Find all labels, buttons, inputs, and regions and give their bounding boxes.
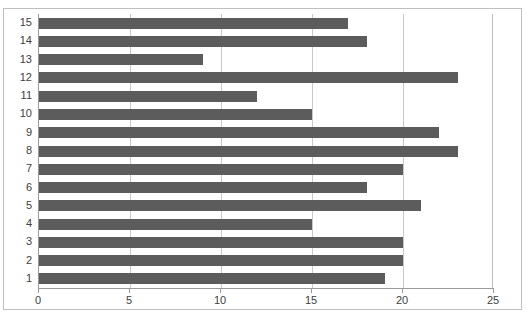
y-tick-label: 14 — [6, 34, 32, 46]
x-tick-mark — [129, 289, 130, 293]
y-tick-label: 1 — [6, 272, 32, 284]
bar — [39, 36, 367, 47]
bar — [39, 200, 421, 211]
bar — [39, 164, 403, 175]
y-tick-label: 5 — [6, 199, 32, 211]
bar — [39, 127, 439, 138]
bar — [39, 146, 458, 157]
y-tick-label: 7 — [6, 162, 32, 174]
bar — [39, 72, 458, 83]
x-tick-mark — [220, 289, 221, 293]
bar — [39, 237, 403, 248]
x-tick-mark — [311, 289, 312, 293]
x-tick-mark — [402, 289, 403, 293]
x-tick-label: 0 — [35, 294, 41, 306]
y-tick-label: 15 — [6, 16, 32, 28]
y-tick-label: 9 — [6, 126, 32, 138]
x-axis-line — [38, 288, 494, 289]
bar — [39, 18, 348, 29]
bar — [39, 54, 203, 65]
bar — [39, 109, 312, 120]
bar — [39, 182, 367, 193]
y-tick-label: 2 — [6, 254, 32, 266]
x-tick-mark — [493, 289, 494, 293]
bar-chart: 0510152025151413121110987654321 — [0, 0, 527, 319]
x-tick-label: 15 — [305, 294, 317, 306]
plot-area — [38, 14, 493, 288]
bar — [39, 273, 385, 284]
y-tick-label: 3 — [6, 235, 32, 247]
x-tick-label: 5 — [126, 294, 132, 306]
bar — [39, 219, 312, 230]
y-tick-label: 8 — [6, 144, 32, 156]
y-tick-label: 11 — [6, 89, 32, 101]
y-tick-label: 4 — [6, 217, 32, 229]
chart-title — [0, 0, 527, 4]
x-tick-label: 10 — [214, 294, 226, 306]
x-tick-label: 20 — [396, 294, 408, 306]
bar — [39, 91, 257, 102]
y-tick-label: 10 — [6, 107, 32, 119]
x-tick-label: 25 — [487, 294, 499, 306]
y-tick-label: 13 — [6, 53, 32, 65]
x-tick-mark — [38, 289, 39, 293]
bar — [39, 255, 403, 266]
y-tick-label: 12 — [6, 71, 32, 83]
y-tick-label: 6 — [6, 181, 32, 193]
